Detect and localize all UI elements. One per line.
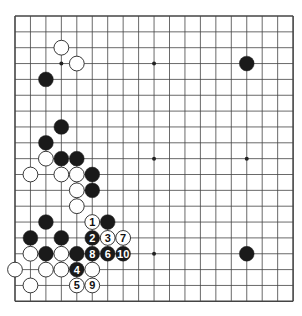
black-stone <box>69 151 84 166</box>
white-stone <box>69 199 84 214</box>
black-stone: 10 <box>116 246 131 261</box>
move-number: 5 <box>74 279 80 291</box>
black-stone <box>100 215 115 230</box>
white-stone <box>54 262 69 277</box>
white-stone <box>54 167 69 182</box>
black-stone <box>54 151 69 166</box>
white-stone <box>69 56 84 71</box>
move-number: 6 <box>105 248 111 260</box>
black-stone <box>54 120 69 135</box>
move-number: 4 <box>74 264 81 276</box>
white-stone: 1 <box>85 215 100 230</box>
star-point <box>59 62 63 66</box>
star-point <box>152 62 156 66</box>
move-number: 3 <box>105 232 111 244</box>
white-stone <box>23 246 38 261</box>
black-stone <box>39 135 54 150</box>
white-stone: 5 <box>69 278 84 293</box>
star-point <box>152 157 156 161</box>
move-number: 10 <box>117 248 129 260</box>
move-number: 1 <box>89 216 95 228</box>
black-stone <box>23 231 38 246</box>
white-stone <box>54 246 69 261</box>
black-stone <box>239 246 254 261</box>
star-point <box>152 252 156 256</box>
white-stone <box>85 262 100 277</box>
black-stone: 4 <box>69 262 84 277</box>
black-stone <box>239 56 254 71</box>
move-number: 7 <box>120 232 126 244</box>
black-stone <box>85 183 100 198</box>
black-stone <box>39 215 54 230</box>
white-stone <box>69 167 84 182</box>
black-stone: 2 <box>85 231 100 246</box>
white-stone <box>54 40 69 55</box>
black-stone <box>39 246 54 261</box>
black-stone: 6 <box>100 246 115 261</box>
black-stone: 8 <box>85 246 100 261</box>
black-stone <box>85 167 100 182</box>
white-stone <box>39 262 54 277</box>
white-stone <box>23 278 38 293</box>
move-number: 8 <box>89 248 95 260</box>
black-stone <box>39 72 54 87</box>
black-stone <box>54 231 69 246</box>
white-stone: 7 <box>116 231 131 246</box>
go-board: 12378610459 <box>0 0 302 316</box>
move-number: 9 <box>89 279 95 291</box>
white-stone <box>8 262 23 277</box>
white-stone: 3 <box>100 231 115 246</box>
white-stone <box>69 183 84 198</box>
stones-layer: 12378610459 <box>8 40 255 293</box>
move-number: 2 <box>89 232 95 244</box>
white-stone <box>39 151 54 166</box>
star-point <box>245 157 249 161</box>
white-stone <box>23 167 38 182</box>
black-stone <box>69 246 84 261</box>
white-stone: 9 <box>85 278 100 293</box>
